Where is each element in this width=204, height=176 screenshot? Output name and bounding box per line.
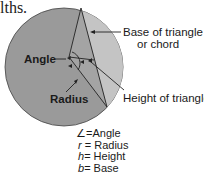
base-label-line2: or chord <box>137 38 179 50</box>
height-label: Height of triangle <box>123 92 204 104</box>
legend-base: b= Base <box>76 163 128 175</box>
radius-label: Radius <box>50 93 88 105</box>
base-label: Base of triangle <box>123 26 203 38</box>
angle-label: Angle <box>24 53 56 65</box>
legend: ∠=Angle r = Radius h= Height b= Base <box>76 128 128 174</box>
